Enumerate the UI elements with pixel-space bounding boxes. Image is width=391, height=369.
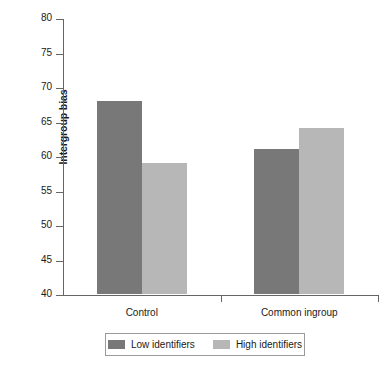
y-tick-label: 45 bbox=[41, 254, 52, 265]
y-tick-75: 75 bbox=[56, 54, 63, 55]
y-axis-line bbox=[63, 19, 64, 296]
y-tick-label: 40 bbox=[41, 288, 52, 299]
x-tick-label-1: Control bbox=[63, 307, 221, 318]
bar-chart-figure: Intergroup bias 404550556065707580 Contr… bbox=[0, 0, 391, 369]
y-tick-40: 40 bbox=[56, 295, 63, 296]
y-tick-label: 65 bbox=[41, 116, 52, 127]
bar bbox=[299, 128, 344, 294]
legend-label: Low identifiers bbox=[131, 339, 195, 350]
x-axis-separator bbox=[378, 295, 379, 302]
y-tick-80: 80 bbox=[56, 19, 63, 20]
x-tick-label-2: Common ingroup bbox=[221, 307, 379, 318]
bar bbox=[254, 149, 299, 294]
legend-item-1[interactable]: Low identifiers bbox=[108, 339, 195, 350]
legend-label: High identifiers bbox=[236, 339, 302, 350]
legend-swatch-icon bbox=[213, 340, 230, 349]
bar bbox=[142, 163, 187, 294]
legend-swatch-icon bbox=[108, 340, 125, 349]
y-tick-label: 70 bbox=[41, 81, 52, 92]
chart-legend: Low identifiersHigh identifiers bbox=[105, 333, 305, 356]
legend-item-2[interactable]: High identifiers bbox=[213, 339, 302, 350]
y-tick-45: 45 bbox=[56, 261, 63, 262]
y-tick-label: 60 bbox=[41, 150, 52, 161]
y-tick-55: 55 bbox=[56, 192, 63, 193]
y-tick-65: 65 bbox=[56, 123, 63, 124]
y-tick-label: 80 bbox=[41, 12, 52, 23]
y-tick-50: 50 bbox=[56, 226, 63, 227]
bar bbox=[97, 101, 142, 294]
y-tick-label: 55 bbox=[41, 185, 52, 196]
plot-area: 404550556065707580 ControlCommon ingroup bbox=[63, 19, 378, 295]
x-axis-separator bbox=[221, 295, 222, 302]
y-tick-70: 70 bbox=[56, 88, 63, 89]
y-tick-label: 50 bbox=[41, 219, 52, 230]
y-tick-60: 60 bbox=[56, 157, 63, 158]
y-tick-label: 75 bbox=[41, 47, 52, 58]
